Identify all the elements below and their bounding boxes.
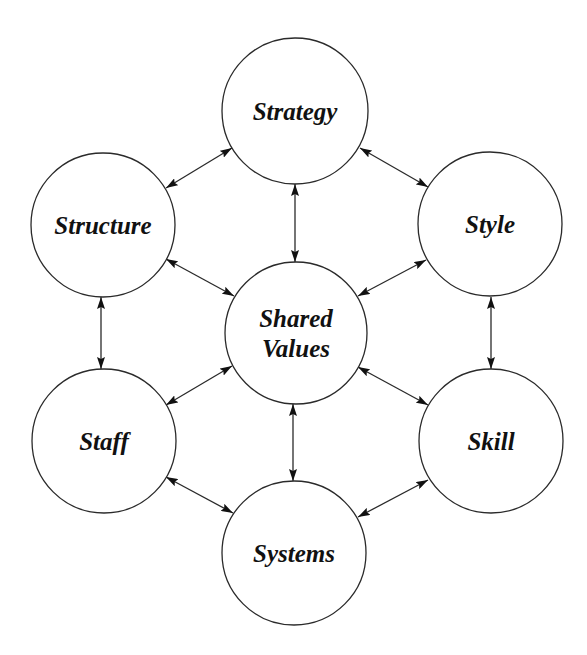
element-nodes: StrategyStructureStyleSharedValuesStaffS… <box>31 38 563 625</box>
node-label-structure: Structure <box>54 212 151 239</box>
bidirectional-arrow-staff-systems <box>166 477 233 513</box>
bidirectional-arrow-strategy-style <box>360 148 428 187</box>
node-label-skill: Skill <box>467 428 514 455</box>
bidirectional-arrow-style-shared-values <box>358 260 426 296</box>
node-systems: Systems <box>222 481 366 625</box>
node-skill: Skill <box>419 369 563 513</box>
node-shared-values: SharedValues <box>225 262 367 404</box>
node-label-staff: Staff <box>79 428 131 455</box>
node-label-style: Style <box>465 211 515 238</box>
bidirectional-arrow-structure-strategy <box>166 148 232 188</box>
bidirectional-arrow-skill-systems <box>358 480 428 517</box>
node-style: Style <box>418 152 562 296</box>
node-label-systems: Systems <box>253 540 335 567</box>
node-staff: Staff <box>32 369 176 513</box>
node-label-shared-values: Shared <box>259 305 333 332</box>
node-circle-shared-values <box>225 262 367 404</box>
node-structure: Structure <box>31 153 175 297</box>
node-label-strategy: Strategy <box>253 98 339 125</box>
node-label-shared-values: Values <box>262 335 330 362</box>
seven-s-diagram: StrategyStructureStyleSharedValuesStaffS… <box>0 0 587 655</box>
bidirectional-arrow-shared-values-skill <box>358 367 428 405</box>
bidirectional-arrow-structure-shared-values <box>166 259 234 296</box>
node-strategy: Strategy <box>222 38 368 184</box>
bidirectional-arrow-staff-shared-values <box>166 366 232 405</box>
